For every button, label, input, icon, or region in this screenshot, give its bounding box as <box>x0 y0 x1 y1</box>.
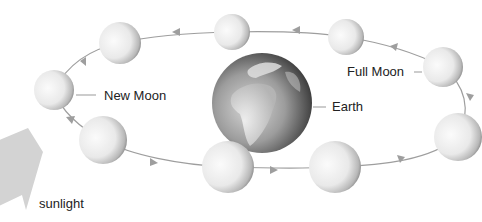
moon-3 <box>214 14 250 50</box>
moon-6 <box>434 113 482 161</box>
moon-2 <box>99 22 141 64</box>
moon-phase-diagram <box>0 0 482 222</box>
moon-7 <box>309 141 361 193</box>
moon-4 <box>328 19 364 55</box>
moon-9 <box>79 116 127 164</box>
moon-full <box>423 47 463 87</box>
moon-8 <box>202 141 254 193</box>
sunlight-label: sunlight <box>39 196 84 211</box>
earth <box>212 53 312 153</box>
moon-new <box>34 70 74 110</box>
earth-label: Earth <box>332 99 363 114</box>
new-moon-label: New Moon <box>104 88 166 103</box>
full-moon-label: Full Moon <box>347 64 404 79</box>
sunlight-arrow <box>0 128 43 215</box>
